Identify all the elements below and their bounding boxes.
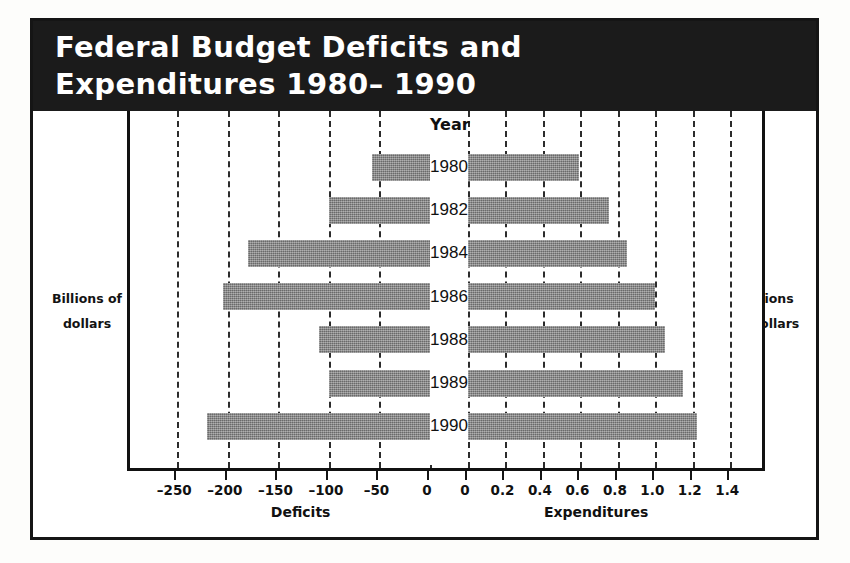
expenditures-6-label: 1.2 (678, 482, 702, 498)
deficits-4-tick (376, 471, 378, 480)
deficits-0-label: –250 (157, 482, 192, 498)
expenditures-1-label: 0.2 (490, 482, 514, 498)
expenditures-3-label: 0.6 (565, 482, 589, 498)
year-label-1989: 1989 (430, 373, 468, 393)
year-column: Year 1980198219841986198819891990 (430, 111, 468, 465)
deficits-0-tick (174, 471, 176, 480)
expenditures-0-label: 0 (460, 482, 469, 498)
deficits-2-tick (275, 471, 277, 480)
bar-expenditure-1984 (468, 240, 627, 267)
bar-deficit-1982 (329, 197, 430, 224)
deficits-2-label: –150 (258, 482, 293, 498)
expenditures-1-tick (502, 471, 504, 480)
bar-expenditure-1980 (468, 154, 579, 181)
expenditures-4-tick (615, 471, 617, 480)
bar-expenditure-1989 (468, 370, 683, 397)
year-label-1982: 1982 (430, 200, 468, 220)
year-label-1984: 1984 (430, 243, 468, 263)
bar-deficit-1989 (329, 370, 430, 397)
deficits-1-label: –200 (207, 482, 242, 498)
expenditures-5-tick (652, 471, 654, 480)
deficits-axis-title: Deficits (271, 504, 331, 520)
year-label-1980: 1980 (430, 157, 468, 177)
axis-row: –250–200–150–100–50000.20.40.60.81.01.21… (127, 471, 765, 527)
gridline-expenditures-7 (730, 111, 732, 468)
deficits-4-label: –50 (364, 482, 390, 498)
deficits-5-tick (427, 471, 429, 480)
chart-body: Billions of dollars Trillions of dollars… (33, 111, 816, 540)
chart-page: Federal Budget Deficits and Expenditures… (0, 0, 850, 563)
bar-deficit-1984 (248, 240, 430, 267)
deficits-3-tick (326, 471, 328, 480)
left-caption-line-1: Billions of (35, 286, 139, 311)
expenditures-0-tick (465, 471, 467, 480)
title-line-2: Expenditures 1980– 1990 (55, 66, 695, 103)
bar-deficit-1980 (372, 154, 430, 181)
expenditures-3-tick (577, 471, 579, 480)
year-label-1988: 1988 (430, 330, 468, 350)
year-label-1986: 1986 (430, 287, 468, 307)
expenditures-2-tick (540, 471, 542, 480)
bar-expenditure-1982 (468, 197, 609, 224)
deficits-1-tick (225, 471, 227, 480)
year-column-header: Year (430, 115, 468, 134)
expenditures-5-label: 1.0 (640, 482, 664, 498)
bar-expenditure-1988 (468, 326, 665, 353)
expenditures-4-label: 0.8 (603, 482, 627, 498)
chart-frame: Federal Budget Deficits and Expenditures… (30, 18, 819, 540)
expenditures-7-label: 1.4 (715, 482, 739, 498)
expenditures-7-tick (727, 471, 729, 480)
title-line-1: Federal Budget Deficits and (55, 30, 522, 64)
page-title: Federal Budget Deficits and Expenditures… (55, 29, 695, 103)
bar-expenditure-1990 (468, 413, 697, 440)
gridline-deficits-0 (177, 111, 179, 468)
expenditures-2-label: 0.4 (528, 482, 552, 498)
left-caption-line-2: dollars (35, 311, 139, 336)
expenditures-axis-title: Expenditures (544, 504, 648, 520)
deficits-5-label: 0 (422, 482, 431, 498)
title-band: Federal Budget Deficits and Expenditures… (33, 21, 816, 111)
bar-deficit-1986 (223, 283, 430, 310)
plot-area: Year 1980198219841986198819891990 (127, 111, 765, 471)
year-label-1990: 1990 (430, 416, 468, 436)
deficits-3-label: –100 (308, 482, 343, 498)
expenditures-6-tick (690, 471, 692, 480)
left-axis-unit-caption: Billions of dollars (35, 286, 139, 336)
bar-deficit-1990 (207, 413, 430, 440)
bar-expenditure-1986 (468, 283, 655, 310)
bar-deficit-1988 (319, 326, 430, 353)
